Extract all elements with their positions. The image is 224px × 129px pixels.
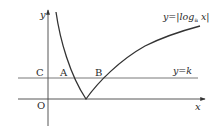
origin-label: O [37, 100, 45, 111]
curve-abs-log [56, 12, 200, 99]
point-b-label: B [95, 67, 102, 78]
function-label-suffix: x| [198, 11, 210, 23]
y-axis-label: y [39, 9, 46, 20]
point-a-label: A [59, 67, 68, 78]
x-axis-label: x [195, 101, 201, 112]
log-abs-diagram: y x O C A B y=k y=|loga x| [0, 0, 224, 129]
line-k-label: y=k [172, 65, 192, 76]
function-label-prefix: y=|log [162, 11, 194, 23]
function-label: y=|loga x| [162, 11, 210, 23]
point-c-label: C [36, 67, 44, 78]
